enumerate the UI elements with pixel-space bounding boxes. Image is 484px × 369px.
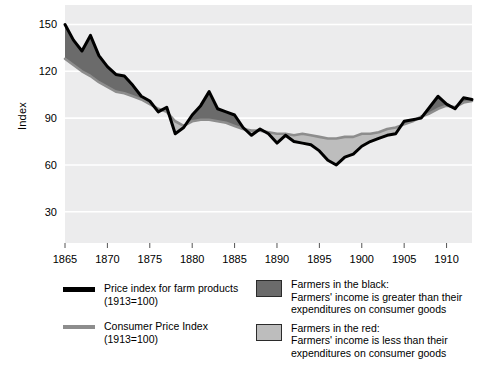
- plot-background: [65, 5, 472, 243]
- x-tick-label: 1885: [222, 253, 246, 265]
- x-tick-label: 1875: [138, 253, 162, 265]
- legend-series-group: Price index for farm products (1913=100)…: [63, 282, 258, 358]
- legend-line1-black-band: Farmers' income is greater than their: [291, 291, 462, 304]
- legend-line2-red-band: expenditures on consumer goods: [291, 347, 448, 360]
- chart-root: 1501209060301865187018751880188518901895…: [0, 0, 484, 369]
- legend-item-farmers-in-the-black: Farmers in the black: Farmers' income is…: [256, 278, 484, 316]
- legend-line2-black-band: expenditures on consumer goods: [291, 303, 462, 316]
- legend-item-consumer-price-index: Consumer Price Index (1913=100): [63, 320, 258, 345]
- y-tick-label: 30: [45, 206, 57, 218]
- x-tick-label: 1880: [180, 253, 204, 265]
- y-tick-label: 120: [39, 65, 57, 77]
- x-tick-label: 1890: [265, 253, 289, 265]
- legend-swatch-black-band: [256, 280, 282, 297]
- legend-sublabel-farm-price: (1913=100): [104, 295, 238, 308]
- legend-text-red-band: Farmers in the red: Farmers' income is l…: [291, 322, 448, 360]
- legend-title-red-band: Farmers in the red:: [291, 322, 448, 335]
- legend-title-black-band: Farmers in the black:: [291, 278, 462, 291]
- legend-line-farm-price-icon: [63, 287, 95, 292]
- x-tick-label: 1895: [307, 253, 331, 265]
- x-tick-label: 1905: [392, 253, 416, 265]
- legend-text-farm-price: Price index for farm products (1913=100): [104, 282, 238, 307]
- x-tick-label: 1900: [350, 253, 374, 265]
- legend-sublabel-cpi: (1913=100): [104, 333, 208, 346]
- legend-line-cpi-icon: [63, 325, 95, 329]
- legend-text-black-band: Farmers in the black: Farmers' income is…: [291, 278, 462, 316]
- x-tick-label: 1870: [95, 253, 119, 265]
- y-tick-label: 60: [45, 159, 57, 171]
- y-axis-label: Index: [16, 86, 28, 146]
- y-tick-label: 150: [39, 18, 57, 30]
- legend-band-group: Farmers in the black: Farmers' income is…: [256, 278, 484, 366]
- y-tick-label: 90: [45, 112, 57, 124]
- legend-label-cpi: Consumer Price Index: [104, 320, 208, 333]
- legend-item-farm-price-index: Price index for farm products (1913=100): [63, 282, 258, 307]
- x-tick-label: 1865: [53, 253, 77, 265]
- legend-swatch-red-band: [256, 324, 282, 341]
- x-tick-label: 1910: [434, 253, 458, 265]
- legend-label-farm-price: Price index for farm products: [104, 282, 238, 295]
- legend-line1-red-band: Farmers' income is less than their: [291, 334, 448, 347]
- legend-text-cpi: Consumer Price Index (1913=100): [104, 320, 208, 345]
- legend-item-farmers-in-the-red: Farmers in the red: Farmers' income is l…: [256, 322, 484, 360]
- chart-legend: Price index for farm products (1913=100)…: [0, 278, 484, 369]
